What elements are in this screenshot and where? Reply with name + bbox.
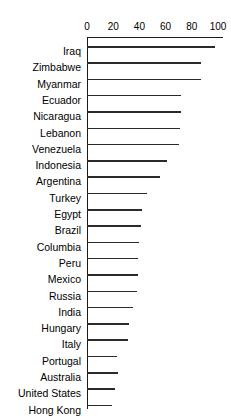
bar-row — [87, 284, 223, 300]
plot-area — [87, 37, 223, 409]
bar — [87, 62, 201, 64]
category-label: Portugal — [0, 355, 84, 367]
bar-row — [87, 235, 223, 251]
category-label: Ecuador — [0, 94, 84, 106]
bar — [87, 193, 147, 195]
bar-row — [87, 218, 223, 234]
bar — [87, 339, 128, 341]
bar-row — [87, 332, 223, 348]
bar-row — [87, 169, 223, 185]
category-label: Lebanon — [0, 127, 84, 139]
bar-row — [87, 153, 223, 169]
bar — [87, 95, 181, 97]
category-label: Venezuela — [0, 143, 84, 155]
bar-row — [87, 186, 223, 202]
bar-row — [87, 365, 223, 381]
bar — [87, 209, 142, 211]
bar-row — [87, 55, 223, 71]
bar-row — [87, 398, 223, 414]
bar — [87, 372, 118, 374]
x-tick-label: 0 — [84, 21, 90, 33]
category-label: Columbia — [0, 241, 84, 253]
bar-row — [87, 202, 223, 218]
bar — [87, 128, 180, 130]
category-label: Peru — [0, 257, 84, 269]
category-label: Turkey — [0, 192, 84, 204]
bar — [87, 46, 215, 48]
category-label: Russia — [0, 290, 84, 302]
category-label: Nicaragua — [0, 110, 84, 122]
bar — [87, 225, 141, 227]
category-label: Argentina — [0, 175, 84, 187]
x-tick-label: 80 — [186, 21, 197, 33]
bar — [87, 79, 201, 81]
category-label: Iraq — [0, 45, 84, 57]
x-tick-label: 100 — [210, 21, 227, 33]
category-label: Hungary — [0, 322, 84, 334]
bar-row — [87, 72, 223, 88]
bar-row — [87, 316, 223, 332]
x-tick-label: 60 — [160, 21, 171, 33]
bar — [87, 111, 181, 113]
x-tick-label: 40 — [134, 21, 145, 33]
bar-row — [87, 251, 223, 267]
bar — [87, 388, 115, 390]
bar-row — [87, 88, 223, 104]
category-label: Hong Kong — [0, 404, 84, 416]
bar — [87, 176, 160, 178]
x-axis-line — [87, 37, 223, 38]
bar — [87, 307, 133, 309]
category-label: India — [0, 306, 84, 318]
bar — [87, 405, 112, 407]
bar — [87, 144, 179, 146]
bar — [87, 258, 138, 260]
bar-row — [87, 349, 223, 365]
bar-row — [87, 104, 223, 120]
bar-row — [87, 137, 223, 153]
y-axis-category-labels: IraqZimbabweMyanmarEcuadorNicaraguaLeban… — [0, 37, 84, 409]
category-label: Australia — [0, 371, 84, 383]
bar — [87, 356, 117, 358]
bar-row — [87, 121, 223, 137]
bar — [87, 291, 137, 293]
category-label: Brazil — [0, 224, 84, 236]
bar — [87, 242, 139, 244]
category-label: Myanmar — [0, 78, 84, 90]
horizontal-bar-chart: 020406080100 IraqZimbabweMyanmarEcuadorN… — [0, 0, 231, 416]
category-label: Zimbabwe — [0, 61, 84, 73]
x-axis-tick-labels: 020406080100 — [0, 21, 231, 35]
bar — [87, 160, 167, 162]
bar — [87, 323, 129, 325]
bar-row — [87, 381, 223, 397]
bar-row — [87, 39, 223, 55]
category-label: Egypt — [0, 208, 84, 220]
bar-row — [87, 300, 223, 316]
bar-row — [87, 267, 223, 283]
x-tick-label: 20 — [108, 21, 119, 33]
category-label: Mexico — [0, 273, 84, 285]
category-label: United States — [0, 387, 84, 399]
bar — [87, 274, 138, 276]
category-label: Indonesia — [0, 159, 84, 171]
category-label: Italy — [0, 338, 84, 350]
